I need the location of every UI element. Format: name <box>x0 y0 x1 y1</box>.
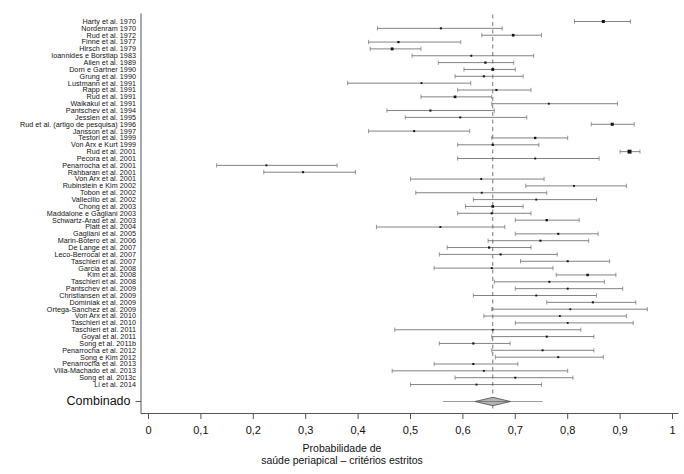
point-estimate-marker <box>413 130 415 132</box>
point-estimate-marker <box>602 20 605 23</box>
point-estimate-marker <box>500 253 502 255</box>
forest-row <box>464 67 515 71</box>
x-tick-label: 0,4 <box>350 425 365 436</box>
point-estimate-marker <box>567 288 569 290</box>
point-estimate-marker <box>491 267 493 269</box>
forest-row <box>455 74 523 78</box>
point-estimate-marker <box>480 178 482 180</box>
forest-row <box>492 307 648 311</box>
forest-row <box>455 376 573 380</box>
point-estimate-marker <box>592 301 594 303</box>
point-estimate-marker <box>491 205 494 208</box>
point-estimate-marker <box>548 103 550 105</box>
point-estimate-marker <box>535 295 537 297</box>
forest-row <box>348 81 471 85</box>
forest-row <box>439 341 510 345</box>
point-estimate-marker <box>495 89 497 91</box>
forest-row <box>377 26 502 30</box>
forest-row <box>387 108 494 112</box>
forest-row <box>405 115 527 119</box>
x-axis-title-line1: Probabilidade de <box>0 442 684 455</box>
forest-row <box>447 245 531 249</box>
point-estimate-marker <box>439 226 441 228</box>
x-axis-title-line2: saúde periapical – critérios estritos <box>0 454 684 467</box>
x-tick-label: 0,5 <box>403 425 418 436</box>
point-estimate-marker <box>397 41 399 43</box>
forest-row <box>575 19 631 23</box>
point-estimate-marker <box>548 281 550 283</box>
point-estimate-marker <box>476 384 478 386</box>
point-estimate-marker <box>557 233 559 235</box>
forest-row <box>421 95 492 99</box>
point-estimate-marker <box>567 260 569 262</box>
point-estimate-marker <box>569 308 571 310</box>
forest-row <box>484 314 627 318</box>
point-estimate-marker <box>429 110 431 112</box>
point-estimate-marker <box>454 96 457 99</box>
forest-row <box>370 47 421 51</box>
point-estimate-marker <box>421 82 423 84</box>
point-estimate-marker <box>483 75 485 77</box>
forest-row <box>495 355 603 359</box>
point-estimate-marker <box>539 240 541 242</box>
forest-row <box>434 362 518 366</box>
forest-row <box>473 293 596 297</box>
x-tick-label: 0,3 <box>298 425 313 436</box>
forest-row <box>620 149 640 153</box>
forest-row <box>488 239 589 243</box>
forest-row <box>458 143 539 147</box>
forest-plot: Harty et al. 1970Nordenram 1970Rud et al… <box>0 0 684 474</box>
forest-row <box>439 252 557 256</box>
x-tick-label: 0,9 <box>612 425 627 436</box>
x-tick-label: 0,7 <box>508 425 523 436</box>
point-estimate-marker <box>573 185 575 187</box>
forest-row <box>492 334 594 338</box>
point-estimate-marker <box>470 55 472 57</box>
point-estimate-marker <box>567 322 569 324</box>
forest-row <box>416 191 547 195</box>
point-estimate-marker <box>391 47 394 50</box>
point-estimate-marker <box>514 377 516 379</box>
forest-row <box>515 321 633 325</box>
forest-row <box>515 232 598 236</box>
forest-row <box>392 369 568 373</box>
forest-row <box>492 102 618 106</box>
point-estimate-marker <box>542 349 544 351</box>
x-tick-label: 0,6 <box>455 425 470 436</box>
forest-row <box>515 286 622 290</box>
forest-row <box>264 170 356 174</box>
forest-row <box>526 184 627 188</box>
point-estimate-marker <box>559 315 561 317</box>
forest-row <box>466 204 524 208</box>
forest-row <box>547 300 636 304</box>
point-estimate-marker <box>265 164 267 166</box>
x-tick-label: 0,1 <box>193 425 208 436</box>
point-estimate-marker <box>492 144 494 146</box>
point-estimate-marker <box>483 370 485 372</box>
point-estimate-marker <box>546 219 548 221</box>
point-estimate-marker <box>557 356 559 358</box>
forest-row <box>482 33 542 37</box>
forest-row <box>494 280 604 284</box>
forest-row <box>369 129 470 133</box>
point-estimate-marker <box>302 171 304 173</box>
forest-row <box>395 328 581 332</box>
summary-label: Combinado <box>67 395 131 408</box>
point-estimate-marker <box>491 68 494 71</box>
x-tick-label: 0 <box>145 425 151 436</box>
forest-row <box>376 225 504 229</box>
point-estimate-marker <box>611 123 614 126</box>
point-estimate-marker <box>586 274 588 276</box>
x-tick-label: 1 <box>669 425 675 436</box>
forest-row <box>369 40 461 44</box>
forest-row <box>411 177 545 181</box>
point-estimate-marker <box>472 363 474 365</box>
forest-row <box>458 156 599 160</box>
point-estimate-marker <box>484 61 486 63</box>
forest-row <box>217 163 338 167</box>
forest-row <box>411 382 542 386</box>
point-estimate-marker <box>491 212 493 214</box>
point-estimate-marker <box>481 192 483 194</box>
forest-row <box>492 348 594 352</box>
x-tick-label: 0,8 <box>560 425 575 436</box>
